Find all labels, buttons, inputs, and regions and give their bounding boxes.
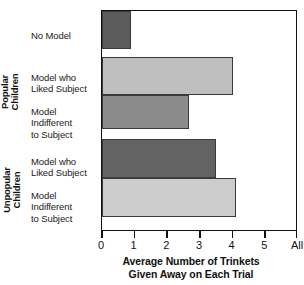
x-tick-2	[166, 231, 168, 238]
x-tick-all	[296, 231, 298, 238]
category-label-unpopular-model-liked: Model who Liked Subject	[31, 156, 99, 179]
x-tick-5	[264, 231, 266, 238]
x-axis: 012345All	[101, 231, 297, 257]
category-label-popular-model-liked: Model who Liked Subject	[31, 72, 99, 95]
x-tick-4	[232, 231, 234, 238]
x-tick-label-3: 3	[188, 239, 210, 251]
plot-area	[101, 10, 297, 231]
bar-popular-indifferent	[102, 95, 189, 129]
bar-unpopular-indifferent	[102, 178, 236, 217]
chart-figure: Popular Children Unpopular Children No M…	[0, 0, 304, 285]
category-label-unpopular-model-indifferent: Model Indifferent to Subject	[31, 190, 99, 224]
x-tick-label-4: 4	[221, 239, 243, 251]
group-label-popular-children: Popular Children	[0, 69, 20, 115]
x-tick-0	[101, 231, 103, 238]
group-label-unpopular-children: Unpopular Children	[2, 162, 22, 218]
x-tick-1	[134, 231, 136, 238]
x-tick-label-5: 5	[253, 239, 275, 251]
x-tick-label-all: All	[286, 239, 304, 251]
bar-unpopular-liked	[102, 139, 216, 178]
bar-popular-liked	[102, 57, 233, 95]
x-tick-label-1: 1	[123, 239, 145, 251]
category-label-no-model: No Model	[31, 30, 99, 41]
x-tick-3	[199, 231, 201, 238]
bar-no-model	[102, 11, 131, 49]
x-tick-label-0: 0	[90, 239, 112, 251]
category-label-popular-model-indifferent: Model Indifferent to Subject	[31, 106, 99, 140]
x-axis-title-line1: Average Number of Trinkets	[78, 255, 304, 268]
bars-layer	[102, 11, 296, 230]
x-axis-title-line2: Given Away on Each Trial	[78, 268, 304, 281]
x-axis-title: Average Number of Trinkets Given Away on…	[78, 255, 304, 280]
x-tick-label-2: 2	[155, 239, 177, 251]
